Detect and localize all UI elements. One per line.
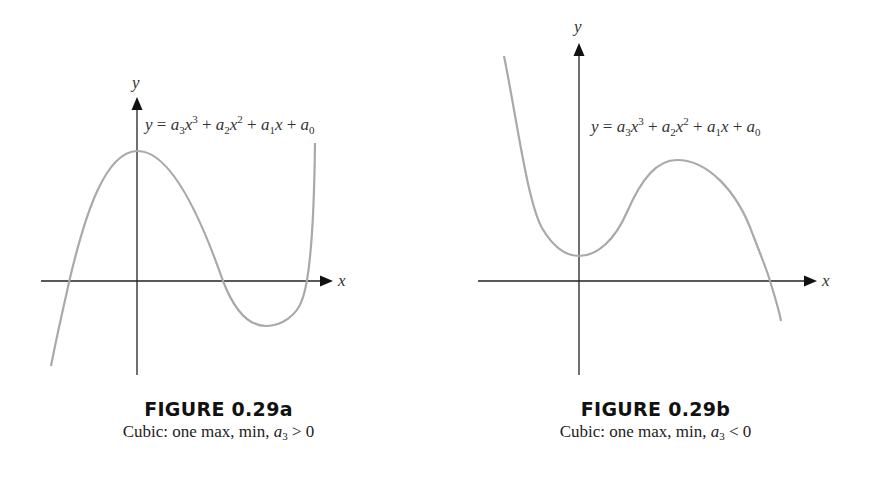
equation-label: y = a3x3 + a2x2 + a1x + a0 [145,116,315,133]
x-axis-arrow-icon [804,276,817,287]
figure-title: FIGURE 0.29a [0,398,437,420]
eq-lhs: y [145,115,153,134]
eq-op: + [243,115,261,134]
eq-equals: = [599,117,617,136]
eq-coef: a [216,115,225,134]
figure-a: y x y = a3x3 + a2x2 + a1x + a0 FIGURE 0.… [0,0,437,483]
y-axis-label: y [132,74,140,91]
eq-op: + [728,117,746,136]
eq-coef: a [171,115,180,134]
eq-equals: = [153,115,171,134]
equation-label: y = a3x3 + a2x2 + a1x + a0 [591,118,761,135]
eq-sub: 0 [309,124,315,136]
caption-var: a [274,422,283,441]
eq-op: + [689,117,707,136]
x-axis-arrow-icon [320,276,333,287]
figure-caption: Cubic: one max, min, a3 > 0 [0,422,437,442]
caption-text: Cubic: one max, min, [560,422,711,441]
y-axis-arrow-icon [574,43,585,56]
cubic-curve-a [51,143,315,366]
caption-var: a [711,422,720,441]
eq-lhs: y [591,117,599,136]
x-axis-label: x [338,272,346,289]
x-axis-label: x [822,272,830,289]
eq-coef: a [617,117,626,136]
caption-relation: < 0 [725,422,752,441]
eq-sub: 0 [755,126,761,138]
cubic-plot-b [437,0,874,400]
eq-op: + [644,117,662,136]
figure-caption: Cubic: one max, min, a3 < 0 [437,422,874,442]
eq-coef: a [301,115,310,134]
figure-b: y x y = a3x3 + a2x2 + a1x + a0 FIGURE 0.… [437,0,874,483]
caption-text: Cubic: one max, min, [123,422,274,441]
y-axis-arrow-icon [132,97,143,110]
eq-op: + [282,115,300,134]
eq-op: + [198,115,216,134]
y-axis-label: y [574,18,582,35]
eq-coef: a [747,117,756,136]
figure-title: FIGURE 0.29b [437,398,874,420]
eq-coef: a [662,117,671,136]
caption-relation: > 0 [288,422,315,441]
cubic-plot-a [0,0,437,400]
